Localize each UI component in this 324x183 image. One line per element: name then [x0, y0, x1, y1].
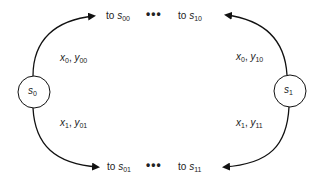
- node-s1-label: s1: [284, 84, 293, 96]
- edge-s1-top-arrow: [226, 15, 287, 75]
- target-s11-label: to s11: [178, 161, 201, 173]
- diagram-graphics: [0, 0, 324, 183]
- target-s10-label: to s10: [178, 10, 202, 22]
- edge-s0-top-arrow: [33, 16, 94, 76]
- edge-label-s1-bottom: x1, y11: [236, 117, 263, 129]
- target-s00-label: to s00: [106, 10, 130, 22]
- node-s0-label: s0: [28, 85, 37, 97]
- edge-label-s0-bottom: x1, y01: [60, 117, 87, 129]
- target-s01-label: to s01: [107, 161, 131, 173]
- edge-label-s0-top: x0, y00: [60, 52, 87, 64]
- ellipsis-bottom: •••: [146, 159, 162, 171]
- state-transition-diagram: s0 s1 to s00 ••• to s10 to s01 ••• to s1…: [0, 0, 324, 183]
- edge-s1-bottom-arrow: [224, 107, 289, 167]
- ellipsis-top: •••: [146, 8, 162, 20]
- edge-label-s1-top: x0, y10: [236, 51, 263, 63]
